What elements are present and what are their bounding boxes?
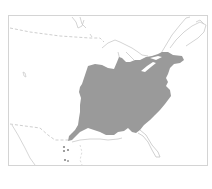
st-lawrence-coast <box>160 17 190 55</box>
border-segment <box>100 38 104 42</box>
map-canvas <box>0 0 212 189</box>
us-canada-border <box>10 28 100 38</box>
mexico-coastline <box>12 125 35 165</box>
lake-huron <box>126 52 134 60</box>
range-map <box>0 0 212 189</box>
lake-superior <box>102 40 148 56</box>
florida-peninsula <box>138 130 160 157</box>
occurrence-dot <box>64 159 66 161</box>
occurrence-dot <box>63 146 65 148</box>
gulf-coastline <box>72 138 122 142</box>
maritimes-coast <box>170 22 206 48</box>
species-range-area <box>68 52 184 141</box>
mexico-east-coast <box>80 145 82 165</box>
occurrence-dot <box>67 149 69 151</box>
western-lake <box>23 72 26 77</box>
occurrence-dot <box>63 150 65 152</box>
northern-coastline <box>72 17 86 28</box>
lake-detail <box>90 34 92 37</box>
occurrence-dot <box>67 160 69 162</box>
